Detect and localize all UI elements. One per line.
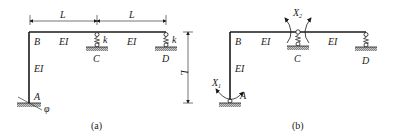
spring-c-label: k bbox=[103, 34, 108, 45]
moment-x2-left-arrow bbox=[285, 18, 291, 43]
beam-bc-label: EI bbox=[58, 36, 69, 47]
node-c-label: C bbox=[93, 53, 100, 64]
spring-support-d: k bbox=[155, 33, 177, 52]
column-ab-label: EI bbox=[33, 63, 44, 74]
node-d-label: D bbox=[361, 55, 370, 66]
node-d-label: D bbox=[161, 53, 170, 64]
unknown-x2-label: X2 bbox=[292, 7, 302, 19]
hinge-support-a: X1 bbox=[211, 77, 243, 107]
moment-x2-right-arrow bbox=[305, 18, 311, 43]
column-ab-label: EI bbox=[234, 63, 245, 74]
spring-support-c: k bbox=[86, 33, 108, 52]
dim-span-left-label: L bbox=[59, 9, 66, 20]
dimension-top: L L bbox=[30, 9, 166, 25]
figure-b: X1 X2 B EI EI EI C D A (b) bbox=[211, 7, 377, 132]
beam-cd-label: EI bbox=[327, 36, 338, 47]
figure-a: L L L φ k bbox=[17, 9, 193, 132]
spring-icon bbox=[296, 35, 301, 43]
structural-diagram: L L L φ k bbox=[0, 0, 393, 139]
node-a-label: A bbox=[239, 90, 247, 101]
node-a-label: A bbox=[33, 91, 41, 102]
unknown-x1-label: X1 bbox=[211, 77, 221, 89]
node-c-label: C bbox=[294, 53, 301, 64]
dim-height-label: L bbox=[179, 69, 190, 76]
beam-cd-label: EI bbox=[126, 36, 137, 47]
dim-span-right-label: L bbox=[128, 9, 135, 20]
node-b-label: B bbox=[34, 36, 40, 47]
beam-bc-label: EI bbox=[260, 36, 271, 47]
caption-a: (a) bbox=[91, 120, 102, 132]
dimension-height: L bbox=[179, 32, 193, 103]
node-b-label: B bbox=[235, 36, 241, 47]
spring-d-label: k bbox=[172, 34, 177, 45]
internal-hinge bbox=[296, 30, 300, 34]
hinge-spring-support-c: X2 bbox=[285, 7, 311, 50]
rotation-a-label: φ bbox=[44, 103, 50, 114]
caption-b: (b) bbox=[292, 120, 304, 132]
spring-support-d bbox=[355, 33, 377, 52]
